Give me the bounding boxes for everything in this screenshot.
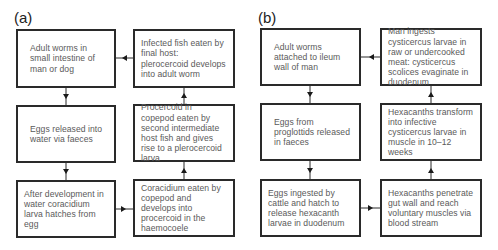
arrow-left-icon [122,55,127,61]
arrow-down-icon [63,169,69,174]
flow-connectors [0,0,498,250]
arrow-up-icon [428,168,434,173]
arrow-down-icon [307,168,313,173]
arrow-up-icon [181,168,187,173]
arrow-up-icon [181,93,187,98]
arrow-right-icon [368,205,373,211]
arrow-right-icon [121,206,126,212]
arrow-left-icon [369,54,374,60]
arrow-up-icon [428,92,434,97]
arrow-down-icon [63,94,69,99]
arrow-down-icon [307,92,313,97]
